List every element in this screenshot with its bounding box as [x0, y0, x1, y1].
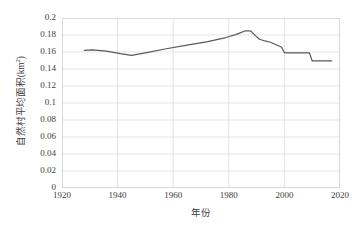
y-axis-tick-label: 0.14	[16, 64, 56, 73]
x-axis-tick-label: 1980	[207, 190, 251, 200]
y-axis-tick-label: 0.04	[16, 149, 56, 158]
y-axis-tick-label: 0.06	[16, 132, 56, 141]
y-axis-tick-label: 0.12	[16, 81, 56, 90]
x-axis-tick-label: 2020	[318, 190, 352, 200]
x-axis-tick-label: 1940	[96, 190, 140, 200]
y-axis-title-superscript: 2	[14, 59, 22, 62]
x-axis-tick-label: 1920	[40, 190, 84, 200]
gridlines	[62, 18, 340, 188]
y-axis-tick-label: 0.1	[16, 98, 56, 107]
y-axis-title-suffix: )	[16, 56, 26, 59]
x-axis-title: 年份	[62, 205, 340, 219]
y-axis-tick-label: 0.02	[16, 166, 56, 175]
plot-area	[62, 18, 340, 188]
y-axis-tick-label: 0.16	[16, 47, 56, 56]
chart-figure: 自然村平均面积(km2) 00.020.040.060.080.10.120.1…	[0, 0, 352, 229]
x-axis-tick-label: 1960	[151, 190, 195, 200]
y-axis-tick-label: 0.18	[16, 30, 56, 39]
y-axis-tick-label: 0.08	[16, 115, 56, 124]
x-axis-tick-label: 2000	[262, 190, 306, 200]
y-axis-tick-label: 0.2	[16, 13, 56, 22]
plot-svg	[62, 18, 340, 188]
